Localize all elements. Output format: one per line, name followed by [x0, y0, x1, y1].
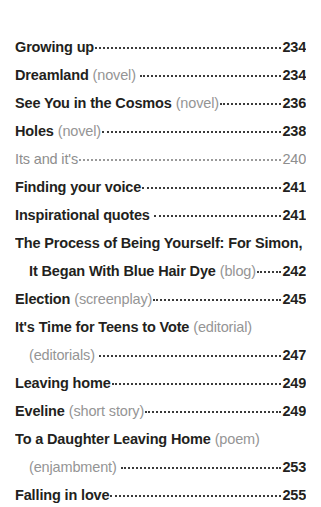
dotted-leader [140, 66, 282, 80]
toc-entry-see-you-in-the-cosmos[interactable]: See You in the Cosmos (novel) 236 [15, 89, 306, 117]
dotted-leader [121, 458, 282, 472]
toc-entry-falling-in-love[interactable]: Falling in love 255 [15, 481, 306, 507]
dotted-leader [220, 94, 281, 108]
dotted-leader [112, 374, 282, 388]
toc-page-number: 234 [282, 33, 306, 61]
toc-entry-line: Finding your voice 241 [15, 173, 306, 201]
toc-entry-title: Finding your voice [15, 173, 141, 201]
toc-entry-row: Inspirational quotes 241 [15, 201, 306, 229]
toc-entry-row: Holes (novel) 238 [15, 117, 306, 145]
toc-entry-line-1: It's Time for Teens to Vote (editorial) [15, 313, 306, 341]
toc-entry-title: It's Time for Teens to Vote [15, 313, 189, 341]
toc-entry-qualifier-continued: (enjambment) [29, 453, 117, 481]
toc-entry-the-process-of-being-yourself[interactable]: The Process of Being Yourself: For Simon… [15, 229, 306, 285]
toc-entry-row: Finding your voice 241 [15, 173, 306, 201]
toc-entry-qualifier: (editorial) [189, 313, 252, 341]
toc-entry-row: It Began With Blue Hair Dye (blog) 242 [29, 257, 306, 285]
toc-entry-line: Its and it's 240 [15, 145, 306, 173]
dotted-leader [145, 402, 281, 416]
toc-page-number: 247 [282, 341, 306, 369]
toc-entry-dreamland[interactable]: Dreamland (novel) 234 [15, 61, 306, 89]
toc-page-number: 249 [282, 369, 306, 397]
toc-entry-row: To a Daughter Leaving Home (poem) [15, 425, 306, 453]
toc-entry-row: Election (screenplay) 245 [15, 285, 306, 313]
toc-entry-qualifier: (novel) [89, 61, 136, 89]
toc-entry-title: Growing up [15, 33, 94, 61]
toc-entry-line: Falling in love 255 [15, 481, 306, 507]
toc-entry-title: To a Daughter Leaving Home [15, 425, 211, 453]
toc-entry-qualifier-continued: (editorials) [29, 341, 95, 369]
toc-entry-line: Leaving home 249 [15, 369, 306, 397]
toc-page-number: 236 [282, 89, 306, 117]
toc-entry-title: Dreamland [15, 61, 89, 89]
toc-entry-line: Dreamland (novel) 234 [15, 61, 306, 89]
toc-entry-line: Holes (novel) 238 [15, 117, 306, 145]
toc-entry-title: Eveline [15, 397, 65, 425]
toc-page-number: 249 [282, 397, 306, 425]
toc-entry-title: The Process of Being Yourself: For Simon… [15, 229, 302, 257]
toc-entry-row: The Process of Being Yourself: For Simon… [15, 229, 306, 257]
toc-entry-qualifier: (screenplay) [70, 285, 152, 313]
toc-entry-its-and-its[interactable]: Its and it's 240 [15, 145, 306, 173]
toc-entry-line: Eveline (short story) 249 [15, 397, 306, 425]
toc-entry-row: It's Time for Teens to Vote (editorial) [15, 313, 306, 341]
toc-page-number: 253 [282, 453, 306, 481]
toc-entry-title: See You in the Cosmos [15, 89, 172, 117]
toc-entry-row: Eveline (short story) 249 [15, 397, 306, 425]
toc-entry-to-a-daughter-leaving-home[interactable]: To a Daughter Leaving Home (poem) (enjam… [15, 425, 306, 481]
toc-entry-growing-up[interactable]: Growing up 234 [15, 33, 306, 61]
toc-page-number: 234 [282, 61, 306, 89]
dotted-leader-placeholder [261, 430, 305, 444]
dotted-leader-placeholder [303, 234, 305, 248]
toc-entry-line-2: (editorials) 247 [15, 341, 306, 369]
toc-entry-finding-your-voice[interactable]: Finding your voice 241 [15, 173, 306, 201]
dotted-leader [154, 206, 282, 220]
toc-entry-eveline[interactable]: Eveline (short story) 249 [15, 397, 306, 425]
toc-entry-line-1: The Process of Being Yourself: For Simon… [15, 229, 306, 257]
toc-entry-row: Its and it's 240 [15, 145, 306, 173]
toc-entry-its-time-for-teens-to-vote[interactable]: It's Time for Teens to Vote (editorial) … [15, 313, 306, 369]
dotted-leader-placeholder [253, 318, 305, 332]
toc-entry-line: Inspirational quotes 241 [15, 201, 306, 229]
toc-entry-qualifier: (novel) [54, 117, 101, 145]
toc-entry-list: Growing up 234 Dreamland (novel) 234 [15, 33, 306, 507]
toc-entry-row: Growing up 234 [15, 33, 306, 61]
toc-entry-title: Falling in love [15, 481, 109, 507]
dotted-leader [79, 150, 281, 164]
dotted-leader [95, 38, 281, 52]
toc-page-number: 255 [282, 481, 306, 507]
toc-entry-title: Its and it's [15, 145, 78, 173]
toc-entry-row: Dreamland (novel) 234 [15, 61, 306, 89]
toc-entry-line-2: It Began With Blue Hair Dye (blog) 242 [15, 257, 306, 285]
toc-entry-row: (enjambment) 253 [29, 453, 306, 481]
toc-entry-qualifier: (poem) [211, 425, 260, 453]
toc-entry-row: (editorials) 247 [29, 341, 306, 369]
toc-page-number: 241 [282, 201, 306, 229]
toc-entry-qualifier: (short story) [65, 397, 144, 425]
toc-entry-election[interactable]: Election (screenplay) 245 [15, 285, 306, 313]
toc-entry-row: Leaving home 249 [15, 369, 306, 397]
toc-entry-title: Election [15, 285, 70, 313]
dotted-leader [257, 262, 281, 276]
toc-entry-row: See You in the Cosmos (novel) 236 [15, 89, 306, 117]
toc-entry-holes[interactable]: Holes (novel) 238 [15, 117, 306, 145]
toc-entry-title: Leaving home [15, 369, 111, 397]
toc-page-number: 241 [282, 173, 306, 201]
toc-entry-line: Election (screenplay) 245 [15, 285, 306, 313]
toc-page-number: 240 [282, 145, 306, 173]
dotted-leader [153, 290, 281, 304]
toc-entry-row: Falling in love 255 [15, 481, 306, 507]
dotted-leader [142, 178, 281, 192]
toc-entry-qualifier: (blog) [216, 257, 256, 285]
toc-page-number: 238 [282, 117, 306, 145]
toc-entry-leaving-home[interactable]: Leaving home 249 [15, 369, 306, 397]
toc-entry-line: Growing up 234 [15, 33, 306, 61]
toc-entry-line-1: To a Daughter Leaving Home (poem) [15, 425, 306, 453]
toc-page-number: 245 [282, 285, 306, 313]
dotted-leader [102, 122, 281, 136]
toc-entry-title-continued: It Began With Blue Hair Dye [29, 257, 216, 285]
toc-page-number: 242 [282, 257, 306, 285]
toc-entry-inspirational-quotes[interactable]: Inspirational quotes 241 [15, 201, 306, 229]
toc-entry-line-2: (enjambment) 253 [15, 453, 306, 481]
